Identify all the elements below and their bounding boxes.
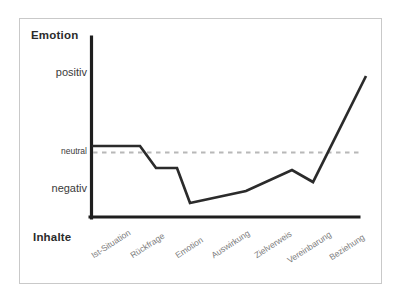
- chart-figure: Emotion Inhalte positiv neutral negativ …: [0, 0, 400, 301]
- emotion-trend-line: [92, 76, 366, 203]
